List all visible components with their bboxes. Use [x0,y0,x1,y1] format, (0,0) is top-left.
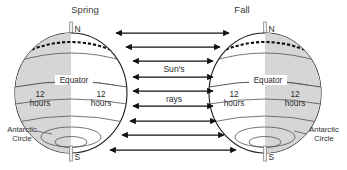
left-hours-left-unit: hours [30,99,50,108]
equinox-diagram: Spring Fall N [0,0,347,170]
left-north-pole-label: N [75,24,81,34]
left-south-axis-stub [70,146,73,161]
left-hours-right-number: 12 [96,90,106,99]
left-hours-left-number: 12 [35,90,45,99]
right-hours-left-number: 12 [229,90,239,99]
right-hours-right-unit: hours [285,99,305,108]
left-hours-right-unit: hours [91,99,111,108]
right-hours-left-unit: hours [224,99,244,108]
left-globe: N [7,22,127,162]
season-title-right: Fall [234,4,249,15]
left-south-pole-label: S [75,152,81,162]
diagram-canvas: Spring Fall N [0,0,347,170]
right-hours-right-number: 12 [290,90,300,99]
left-antarctic-label-1: Antarctic [7,125,37,134]
right-antarctic-label-2: Circle [314,134,333,143]
right-antarctic-label-1: Antarctic [309,125,339,134]
left-equator-label: Equator [60,76,89,85]
right-north-pole-label: N [269,24,275,34]
right-south-axis-stub [264,146,267,161]
right-globe: N Equator 12 hours [209,22,339,162]
right-south-pole-label: S [269,152,275,162]
rays-label: rays [166,94,182,104]
season-title-left: Spring [71,4,98,15]
left-antarctic-label-2: Circle [12,134,31,143]
suns-label: Sun's [163,64,184,74]
right-equator-label: Equator [254,76,283,85]
